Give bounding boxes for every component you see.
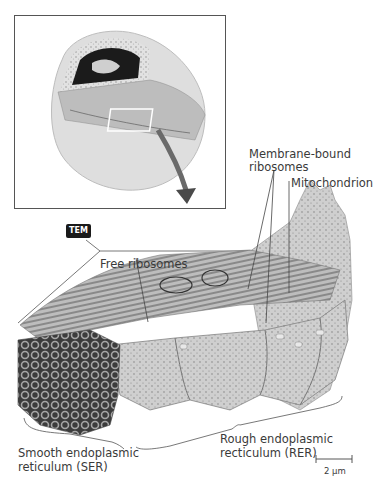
label-rer-line2: recticulum (RER) <box>220 446 317 460</box>
illustration-canvas <box>0 0 374 489</box>
label-rer-line1: Rough endoplasmic <box>220 432 333 446</box>
scale-bar <box>316 455 352 463</box>
scale-bar-label: 2 µm <box>324 464 346 478</box>
label-membrane-bound-ribosomes-line2: ribosomes <box>249 160 309 174</box>
cell-cutaway-drawing <box>51 31 205 204</box>
label-ser-line2: reticulum (SER) <box>18 460 108 474</box>
label-free-ribosomes: Free ribosomes <box>100 257 188 271</box>
pointer-arrow-icon <box>176 188 196 204</box>
label-membrane-bound-ribosomes-line1: Membrane-bound <box>249 147 351 161</box>
er-illustration <box>18 180 352 435</box>
tem-badge: TEM <box>66 224 91 238</box>
label-ser-line1: Smooth endoplasmic <box>18 446 139 460</box>
label-mitochondrion: Mitochondrion <box>291 176 373 190</box>
